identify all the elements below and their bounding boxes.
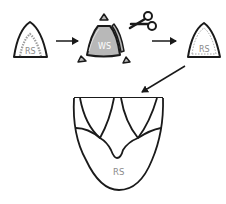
result-valve-cup: RS <box>74 98 163 190</box>
trim-piece-left <box>78 56 86 62</box>
arrow-down-left-icon <box>142 66 185 92</box>
step2-ws-shape: WS <box>78 14 130 63</box>
step2-label: WS <box>98 42 111 51</box>
scissors-icon <box>130 12 156 30</box>
step3-rs-leaflet: RS <box>188 23 220 57</box>
result-label: RS <box>113 167 124 177</box>
step1-label: RS <box>25 47 36 56</box>
trim-piece-right <box>123 57 130 63</box>
step3-label: RS <box>199 45 210 54</box>
trim-piece-top <box>100 14 108 20</box>
diagram-canvas: RS WS RS <box>0 0 226 204</box>
step1-rs-leaflet: RS <box>14 22 47 57</box>
